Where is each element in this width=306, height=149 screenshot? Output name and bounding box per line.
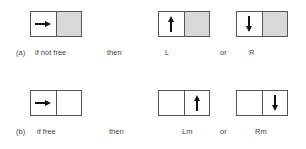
row-b-result1: Lm	[182, 127, 192, 136]
row-b-label: (b)	[16, 127, 25, 136]
cell	[159, 12, 184, 36]
row-a-condition: if not free	[35, 48, 66, 57]
row-a-result1: L	[165, 48, 169, 57]
row-b-result2: Rm	[255, 127, 267, 136]
cell	[184, 91, 210, 115]
row-a-or: or	[220, 48, 227, 57]
cell	[31, 91, 56, 115]
row-a-result-box-L	[158, 11, 210, 37]
empty-cell	[237, 91, 262, 115]
row-a-label: (a)	[16, 48, 25, 57]
shaded-cell	[262, 12, 288, 36]
row-a-input-box	[30, 11, 82, 37]
empty-cell	[56, 91, 82, 115]
shaded-cell	[56, 12, 82, 36]
row-b-input-box	[30, 90, 82, 116]
row-a-then: then	[107, 48, 122, 57]
row-a-result-box-R	[236, 11, 288, 37]
arrow-up-icon	[194, 95, 200, 111]
arrow-down-icon	[272, 95, 278, 111]
row-b-then: then	[109, 127, 124, 136]
empty-cell	[159, 91, 184, 115]
row-b-result-box-Lm	[158, 90, 210, 116]
row-b-result-box-Rm	[236, 90, 288, 116]
arrow-right-icon	[35, 100, 51, 106]
row-a-result2: R	[249, 48, 254, 57]
shaded-cell	[184, 12, 210, 36]
cell	[237, 12, 262, 36]
arrow-up-icon	[168, 16, 174, 32]
row-b-condition: if free	[37, 127, 56, 136]
arrow-down-icon	[246, 16, 252, 32]
cell	[31, 12, 56, 36]
cell	[262, 91, 288, 115]
row-b-or: or	[220, 127, 227, 136]
arrow-right-icon	[35, 21, 51, 27]
